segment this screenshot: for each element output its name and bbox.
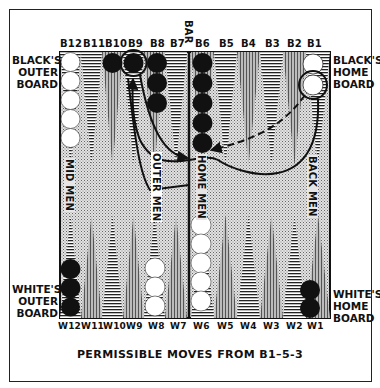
- label-line: BOARD: [12, 78, 58, 90]
- point-label-W2: W2: [286, 321, 303, 331]
- label-line: BOARD: [333, 312, 379, 324]
- checkers-W6-white: [191, 215, 211, 311]
- point-label-B3: B3: [265, 38, 280, 49]
- white-home-board-label: WHITE'S HOME BOARD: [333, 288, 379, 324]
- label-line: HOME: [333, 66, 379, 78]
- point-label-B9: B9: [128, 38, 143, 49]
- label-line: HOME: [333, 300, 379, 312]
- point-label-B6: B6: [195, 38, 210, 49]
- checkers-B8-black: [147, 53, 167, 113]
- white-outer-board-label: WHITE'S OUTER BOARD: [12, 283, 58, 319]
- black-outer-board-label: BLACK'S OUTER BOARD: [12, 54, 58, 90]
- checkers-W12-black: [61, 259, 81, 317]
- point-label-W12: W12: [58, 321, 81, 331]
- label-line: OUTER: [12, 295, 58, 307]
- label-line: WHITE'S: [12, 283, 58, 295]
- outer-men-label: OUTER MEN: [151, 152, 162, 222]
- label-line: BLACK'S: [333, 54, 379, 66]
- point-label-W6: W6: [193, 321, 210, 331]
- label-line: WHITE'S: [333, 288, 379, 300]
- point-label-W9: W9: [126, 321, 143, 331]
- point-label-W11: W11: [81, 321, 104, 331]
- point-label-B4: B4: [241, 38, 256, 49]
- point-label-B8: B8: [150, 38, 165, 49]
- label-line: BOARD: [333, 78, 379, 90]
- label-line: BOARD: [12, 307, 58, 319]
- checkers-W8-white: [145, 258, 165, 316]
- point-label-B7: B7: [170, 38, 185, 49]
- point-label-W5: W5: [217, 321, 234, 331]
- mid-men-label: MID MEN: [64, 158, 75, 212]
- back-men-label: BACK MEN: [307, 155, 318, 218]
- point-label-W8: W8: [148, 321, 165, 331]
- label-line: BLACK'S: [12, 54, 58, 66]
- point-label-W10: W10: [103, 321, 126, 331]
- point-label-B12: B12: [60, 38, 82, 49]
- point-label-W7: W7: [170, 321, 187, 331]
- point-label-B5: B5: [219, 38, 234, 49]
- label-line: OUTER: [12, 66, 58, 78]
- point-label-W3: W3: [263, 321, 280, 331]
- home-men-label: HOME MEN: [196, 154, 207, 220]
- point-label-B11: B11: [83, 38, 105, 49]
- black-home-board-label: BLACK'S HOME BOARD: [333, 54, 379, 90]
- point-label-W4: W4: [240, 321, 257, 331]
- point-label-B2: B2: [287, 38, 302, 49]
- point-label-B1: B1: [307, 38, 322, 49]
- point-label-B10: B10: [105, 38, 127, 49]
- checkers-B12-white: [61, 53, 80, 148]
- point-label-W1: W1: [307, 321, 324, 331]
- figure-caption: PERMISSIBLE MOVES FROM B1–5-3: [0, 348, 380, 361]
- checkers-B6-black: [193, 53, 213, 153]
- checkers-B9-black: [121, 50, 147, 76]
